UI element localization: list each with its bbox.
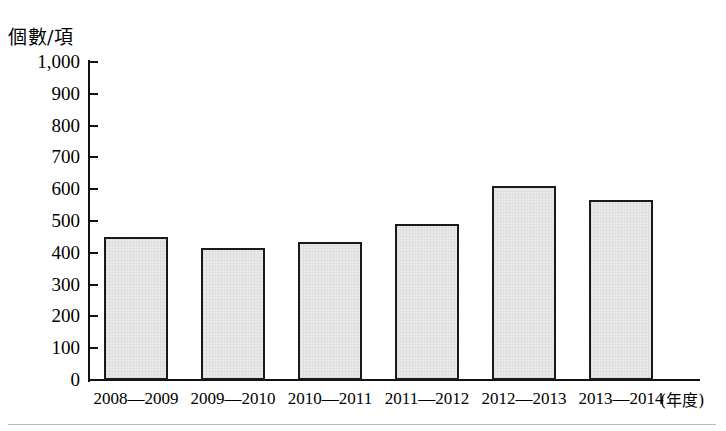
bar (395, 224, 459, 380)
x-axis-category-label: 2013—2014 (573, 389, 669, 409)
y-axis-tick-label: 200 (8, 306, 80, 325)
x-axis-category-label: 2009—2010 (185, 389, 281, 409)
x-axis-category-label: 2012—2013 (476, 389, 572, 409)
y-axis-tick (90, 284, 98, 286)
bar-chart: 個數/項 1,0009008007006005004003002001000 2… (0, 0, 726, 431)
y-axis-tick (90, 347, 98, 349)
y-axis-tick-label: 500 (8, 211, 80, 230)
bar (104, 237, 168, 380)
y-axis-tick-label: 100 (8, 338, 80, 357)
bar (201, 248, 265, 380)
y-axis-tick-label: 1,000 (8, 52, 80, 71)
y-axis-tick-label-wrap: 200 (0, 306, 80, 325)
y-axis-tick-label-wrap: 0 (0, 370, 80, 389)
y-axis-tick-label: 800 (8, 116, 80, 135)
y-axis-tick-label: 0 (8, 370, 80, 389)
y-axis-tick-label-wrap: 400 (0, 243, 80, 262)
y-axis-unit-label: 個數/項 (8, 26, 73, 48)
y-axis-tick-label: 300 (8, 275, 80, 294)
x-axis-unit-label: (年度) (660, 391, 704, 411)
y-axis-tick (90, 188, 98, 190)
y-axis-tick (90, 315, 98, 317)
x-axis-category-label: 2011—2012 (379, 389, 475, 409)
y-axis-tick-label: 900 (8, 84, 80, 103)
y-axis-tick-label-wrap: 100 (0, 338, 80, 357)
y-axis-tick (90, 156, 98, 158)
bar (298, 242, 362, 380)
y-axis-tick-label: 600 (8, 179, 80, 198)
y-axis-tick (90, 379, 98, 381)
y-axis-tick-label-wrap: 900 (0, 84, 80, 103)
y-axis-tick-label-wrap: 500 (0, 211, 80, 230)
y-axis-tick (90, 252, 98, 254)
y-axis-tick-label-wrap: 1,000 (0, 52, 80, 71)
y-axis-tick-label-wrap: 600 (0, 179, 80, 198)
y-axis-tick-label-wrap: 800 (0, 116, 80, 135)
y-axis-tick-label: 400 (8, 243, 80, 262)
y-axis-tick (90, 125, 98, 127)
bar (492, 186, 556, 380)
x-axis-category-label: 2008—2009 (88, 389, 184, 409)
y-axis-tick-label-wrap: 300 (0, 275, 80, 294)
x-axis-category-label: 2010—2011 (282, 389, 378, 409)
bar (589, 200, 653, 380)
y-axis-tick (90, 61, 98, 63)
page-bottom-rule (8, 424, 716, 425)
y-axis-tick-label: 700 (8, 147, 80, 166)
y-axis-tick (90, 93, 98, 95)
y-axis-tick (90, 220, 98, 222)
y-axis-tick-label-wrap: 700 (0, 147, 80, 166)
